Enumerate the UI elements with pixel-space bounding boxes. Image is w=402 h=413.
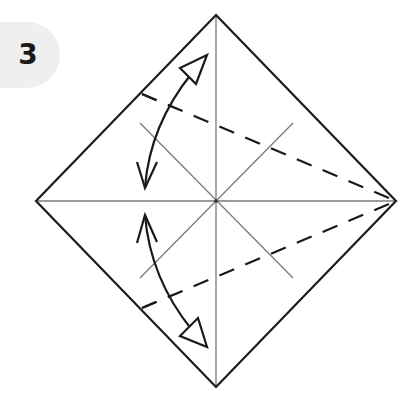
center-point [214,199,218,203]
lower-fold-tick [142,302,156,308]
origami-diagram [0,0,402,413]
hollow-arrowhead-icon [180,318,207,347]
hollow-arrowhead-icon [180,55,207,84]
lower-fold-unfold-arrow [137,215,207,347]
upper-fold-tick [142,94,156,100]
upper-fold-unfold-arrow [137,55,207,188]
